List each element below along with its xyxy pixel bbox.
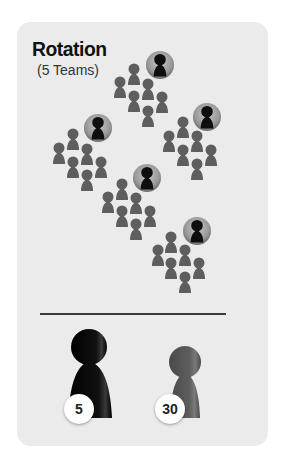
- gray-pawn-icon: [114, 77, 126, 99]
- leaders-count-badge: 5: [64, 394, 94, 424]
- divider: [40, 313, 226, 315]
- team-left: [53, 114, 112, 191]
- gray-pawn-icon: [191, 159, 203, 181]
- gray-pawn-icon: [193, 258, 205, 280]
- gray-pawn-icon: [144, 206, 156, 228]
- gray-pawn-icon: [142, 106, 154, 128]
- gray-pawn-icon: [179, 245, 191, 267]
- team-bottom: [152, 217, 211, 293]
- teams-diagram: [0, 0, 281, 472]
- gray-pawn-icon: [116, 179, 128, 201]
- gray-pawn-icon: [67, 157, 79, 179]
- gray-pawn-icon: [81, 170, 93, 192]
- gray-pawn-icon: [128, 64, 140, 86]
- gray-pawn-icon: [142, 79, 154, 101]
- gray-pawn-icon: [165, 232, 177, 254]
- gray-pawn-icon: [152, 245, 164, 267]
- gray-pawn-icon: [53, 143, 65, 165]
- gray-pawn-icon: [205, 145, 217, 167]
- gray-pawn-icon: [116, 206, 128, 228]
- gray-pawn-icon: [130, 219, 142, 241]
- gray-pawn-icon: [177, 145, 189, 167]
- gray-pawn-icon: [128, 91, 140, 113]
- team-center: [102, 164, 161, 240]
- gray-pawn-icon: [95, 157, 107, 179]
- gray-pawn-icon: [177, 117, 189, 139]
- gray-pawn-icon: [81, 144, 93, 166]
- gray-pawn-icon: [191, 131, 203, 153]
- gray-pawn-icon: [163, 131, 175, 153]
- gray-pawn-icon: [179, 272, 191, 294]
- gray-pawn-icon: [130, 193, 142, 215]
- members-count-badge: 30: [155, 394, 185, 424]
- gray-pawn-icon: [165, 258, 177, 280]
- team-top: [114, 51, 174, 127]
- team-right: [163, 103, 221, 180]
- gray-pawn-icon: [67, 129, 79, 151]
- gray-pawn-icon: [156, 92, 168, 114]
- gray-pawn-icon: [102, 192, 114, 214]
